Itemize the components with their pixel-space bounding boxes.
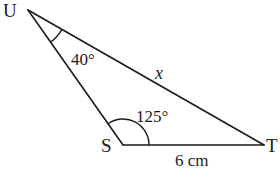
angle-label-s: 125° xyxy=(136,107,168,126)
vertex-label-t: T xyxy=(266,135,278,156)
angle-arc-u xyxy=(51,29,62,42)
vertex-label-s: S xyxy=(101,135,112,156)
triangle-diagram: U S T 40° 125° x 6 cm xyxy=(0,0,280,181)
side-label-st: 6 cm xyxy=(175,151,209,170)
side-label-ut: x xyxy=(154,63,163,83)
angle-label-u: 40° xyxy=(71,50,95,69)
side-us xyxy=(28,10,123,145)
vertex-label-u: U xyxy=(3,0,17,21)
